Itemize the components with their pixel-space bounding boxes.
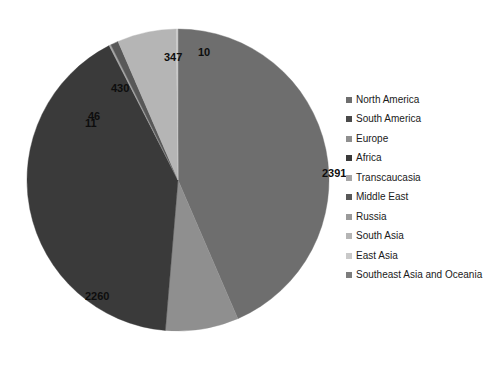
pie-slice-group bbox=[27, 29, 329, 331]
legend-item-label: North America bbox=[356, 95, 419, 105]
legend-item[interactable]: South America bbox=[346, 110, 498, 130]
legend-item[interactable]: North America bbox=[346, 90, 498, 110]
legend-item[interactable]: Transcaucasia bbox=[346, 168, 498, 188]
legend-item-label: East Asia bbox=[356, 251, 398, 261]
legend-item-label: Europe bbox=[356, 134, 388, 144]
pie-data-label: 2260 bbox=[85, 291, 109, 302]
legend-item[interactable]: South Asia bbox=[346, 227, 498, 247]
chart-legend: North AmericaSouth AmericaEuropeAfricaTr… bbox=[346, 90, 498, 285]
legend-item-label: Africa bbox=[356, 153, 382, 163]
legend-swatch-icon bbox=[346, 233, 352, 239]
legend-item[interactable]: Africa bbox=[346, 149, 498, 169]
legend-swatch-icon bbox=[346, 136, 352, 142]
pie-chart-plot-area: 10239122604611430347 bbox=[26, 14, 330, 346]
pie-chart-figure: 10239122604611430347 North AmericaSouth … bbox=[0, 0, 500, 366]
legend-swatch-icon bbox=[346, 194, 352, 200]
legend-item-label: Russia bbox=[356, 212, 387, 222]
pie-data-label: 11 bbox=[85, 118, 97, 129]
legend-item-label: Middle East bbox=[356, 192, 408, 202]
legend-swatch-icon bbox=[346, 155, 352, 161]
pie-data-label: 347 bbox=[164, 52, 182, 63]
legend-swatch-icon bbox=[346, 272, 352, 278]
legend-item-label: Southeast Asia and Oceania bbox=[356, 270, 482, 280]
legend-item[interactable]: Europe bbox=[346, 129, 498, 149]
legend-item-label: South America bbox=[356, 114, 421, 124]
legend-swatch-icon bbox=[346, 97, 352, 103]
legend-item-label: Transcaucasia bbox=[356, 173, 421, 183]
legend-swatch-icon bbox=[346, 253, 352, 259]
legend-item[interactable]: Middle East bbox=[346, 188, 498, 208]
legend-item-label: South Asia bbox=[356, 231, 404, 241]
pie-data-label: 2391 bbox=[322, 168, 346, 179]
legend-swatch-icon bbox=[346, 116, 352, 122]
pie-data-label: 10 bbox=[198, 47, 210, 58]
pie-data-label: 430 bbox=[111, 83, 129, 94]
legend-swatch-icon bbox=[346, 214, 352, 220]
legend-item[interactable]: Southeast Asia and Oceania bbox=[346, 266, 498, 286]
legend-swatch-icon bbox=[346, 175, 352, 181]
pie-svg bbox=[26, 14, 330, 346]
legend-item[interactable]: Russia bbox=[346, 207, 498, 227]
legend-item[interactable]: East Asia bbox=[346, 246, 498, 266]
